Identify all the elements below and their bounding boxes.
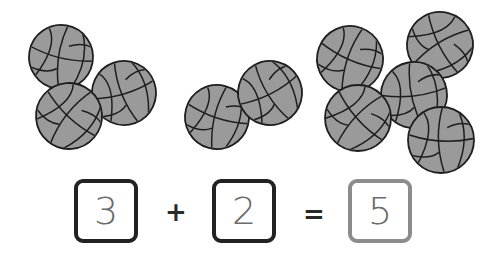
plus-sign: + xyxy=(165,199,187,225)
addend-1-digit: 3 xyxy=(94,189,118,233)
addend-box-2: 2 xyxy=(212,179,276,243)
group-five xyxy=(305,0,488,175)
group-two xyxy=(175,47,316,159)
equals-sign: = xyxy=(303,201,325,227)
addend-2-digit: 2 xyxy=(232,189,256,233)
addend-box-1: 3 xyxy=(74,179,138,243)
sum-digit: 5 xyxy=(368,189,392,233)
group-three xyxy=(20,18,168,166)
sum-box: 5 xyxy=(348,179,412,243)
